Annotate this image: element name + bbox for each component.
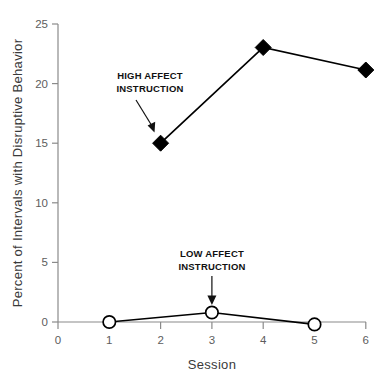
y-tick-label-5: 5	[42, 256, 48, 268]
series-high-affect-line	[161, 48, 366, 144]
annotation-high-affect-arrow-head	[148, 122, 156, 133]
data-point-session-1	[103, 316, 115, 328]
chart-figure: 25 20 15 10 5 0 0 1 2 3 4 5	[0, 0, 389, 379]
annotation-high-affect-arrow-shaft	[136, 100, 152, 126]
annotation-low-affect-line1: LOW AFFECT	[180, 248, 244, 259]
x-tick-label-4: 4	[260, 334, 267, 346]
x-tick-label-1: 1	[106, 334, 112, 346]
y-tick-label-15: 15	[35, 137, 48, 149]
line-chart: 25 20 15 10 5 0 0 1 2 3 4 5	[0, 0, 389, 379]
y-axis-ticks: 25 20 15 10 5 0	[35, 18, 58, 328]
x-tick-label-6: 6	[363, 334, 369, 346]
y-axis-title: Percent of Intervals with Disruptive Beh…	[10, 38, 25, 307]
annotation-high-affect-line1: HIGH AFFECT	[117, 70, 183, 81]
y-tick-label-20: 20	[35, 78, 48, 90]
annotation-low-affect-line2: INSTRUCTION	[178, 261, 245, 272]
data-point-session-5	[308, 318, 320, 330]
series-high-affect	[153, 40, 374, 152]
annotation-high-affect-line2: INSTRUCTION	[116, 83, 183, 94]
annotation-low-affect-arrow-head	[207, 296, 216, 306]
x-axis-ticks: 0 1 2 3 4 5 6	[55, 322, 369, 346]
y-tick-label-25: 25	[35, 18, 48, 30]
x-tick-label-3: 3	[209, 334, 215, 346]
x-tick-label-5: 5	[311, 334, 317, 346]
y-tick-label-0: 0	[42, 316, 48, 328]
x-tick-label-2: 2	[157, 334, 163, 346]
y-tick-label-10: 10	[35, 197, 48, 209]
data-point-session-3	[206, 306, 218, 318]
x-axis-title: Session	[188, 357, 236, 372]
x-tick-label-0: 0	[55, 334, 61, 346]
annotation-low-affect: LOW AFFECT INSTRUCTION	[178, 248, 245, 305]
annotation-high-affect: HIGH AFFECT INSTRUCTION	[116, 70, 183, 133]
data-point-session-6	[358, 62, 374, 78]
